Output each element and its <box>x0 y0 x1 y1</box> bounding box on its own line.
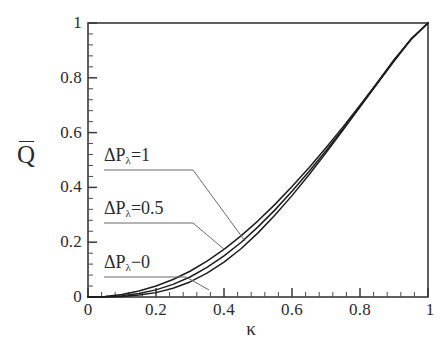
figure-container: 1 0.8 0.6 0.4 0.2 0 0 0.2 0.4 0.6 0.8 1 … <box>0 0 444 347</box>
annotation-suffix: =1 <box>131 145 150 165</box>
annotation-delta-p-lambda-1: ΔPλ=1 <box>104 146 150 166</box>
annotation-prefix: ΔP <box>104 145 126 165</box>
annotation-delta-p-lambda-05: ΔPλ=0.5 <box>104 199 164 219</box>
x-tick-label-08: 0.8 <box>349 300 371 320</box>
y-tick-label-1: 1 <box>73 13 82 33</box>
y-tick-label-08: 0.8 <box>60 68 82 88</box>
y-tick-label-02: 0.2 <box>60 232 82 252</box>
x-tick-label-1: 1 <box>426 300 435 320</box>
annotation-prefix: ΔP <box>104 252 126 272</box>
y-axis-title-text: Q <box>17 142 35 168</box>
y-axis-major-ticks <box>88 23 97 297</box>
x-tick-label-0: 0 <box>84 300 93 320</box>
annotation-suffix: =0.5 <box>131 198 164 218</box>
y-tick-label-0: 0 <box>73 287 82 307</box>
y-tick-label-06: 0.6 <box>60 123 82 143</box>
leader-line-dp05 <box>104 223 225 250</box>
y-axis-title: Q <box>17 141 35 168</box>
chart-plot <box>0 0 444 347</box>
annotation-delta-p-lambda-0: ΔPλ−0 <box>104 253 150 273</box>
x-tick-label-04: 0.4 <box>213 300 235 320</box>
x-tick-label-06: 0.6 <box>281 300 303 320</box>
annotation-prefix: ΔP <box>104 198 126 218</box>
y-tick-label-04: 0.4 <box>60 177 82 197</box>
annotation-suffix: −0 <box>131 252 150 272</box>
x-axis-title: κ <box>246 318 256 340</box>
x-tick-label-02: 0.2 <box>145 300 167 320</box>
